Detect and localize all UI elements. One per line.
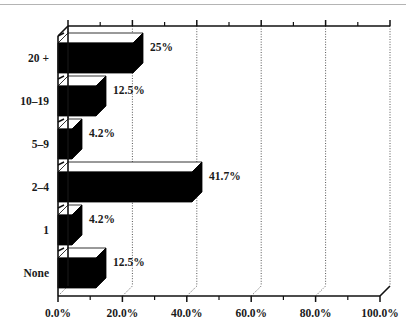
bar-chart-svg: 20 + 10–19 5–9 2–4 1 None 0.0% 20.0% 40.… [0, 0, 406, 334]
data-value-labels: 25% 12.5% 4.2% 41.7% 4.2% 12.5% [89, 41, 241, 268]
data-label-none: 12.5% [113, 256, 145, 268]
y-tick-label-5-9: 5–9 [32, 138, 50, 150]
bar-group-none[interactable] [58, 248, 106, 288]
data-label-20-plus: 25% [150, 41, 173, 53]
x-axis-labels: 0.0% 20.0% 40.0% 60.0% 80.0% 100.0% [45, 307, 399, 319]
bar-front-face-2-4 [58, 172, 192, 202]
data-label-5-9: 4.2% [89, 127, 115, 139]
bar-group-5-9[interactable] [58, 119, 82, 159]
y-tick-label-10-19: 10–19 [20, 95, 49, 107]
chart-container: 20 + 10–19 5–9 2–4 1 None 0.0% 20.0% 40.… [0, 0, 406, 334]
bar-front-face-1 [58, 215, 72, 245]
y-tick-label-20-plus: 20 + [28, 52, 49, 64]
x-tick-label-20: 20.0% [107, 307, 139, 319]
bar-group-10-19[interactable] [58, 76, 106, 116]
x-tick-label-60: 60.0% [235, 307, 267, 319]
x-tick-label-100: 100.0% [361, 307, 398, 319]
bar-group-2-4[interactable] [58, 162, 202, 202]
bar-top-face-2-4 [58, 162, 202, 172]
x-tick-label-40: 40.0% [171, 307, 203, 319]
bar-group-20-plus[interactable] [58, 33, 143, 73]
bottom-axis-ticks [58, 296, 380, 302]
y-axis-labels: 20 + 10–19 5–9 2–4 1 None [20, 52, 49, 279]
top-divider-rule [0, 4, 406, 5]
gridline-40 [187, 26, 197, 296]
depth-connector-right [380, 286, 390, 296]
data-label-10-19: 12.5% [113, 84, 145, 96]
bar-front-face-10-19 [58, 86, 96, 116]
y-tick-label-2-4: 2–4 [32, 181, 50, 193]
y-tick-label-none: None [23, 267, 49, 279]
gridline-60 [251, 26, 261, 296]
bar-front-face-none [58, 258, 96, 288]
bar-front-face-20-plus [58, 43, 133, 73]
x-tick-label-0: 0.0% [45, 307, 71, 319]
bar-top-face-20-plus [58, 33, 143, 43]
top-axis-ticks [68, 20, 390, 26]
data-label-2-4: 41.7% [209, 170, 241, 182]
x-tick-label-80: 80.0% [300, 307, 332, 319]
bar-front-face-5-9 [58, 129, 72, 159]
y-tick-label-1: 1 [43, 224, 49, 236]
gridline-80 [316, 26, 326, 296]
bar-group-1[interactable] [58, 205, 82, 245]
gridline-100 [380, 26, 390, 296]
data-label-1: 4.2% [89, 213, 115, 225]
